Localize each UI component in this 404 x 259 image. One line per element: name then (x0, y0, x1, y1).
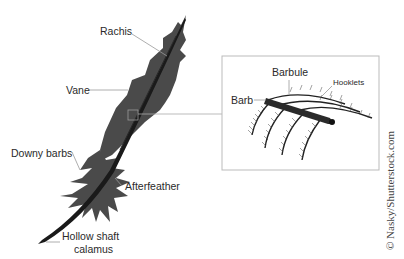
feather-illustration (0, 0, 404, 259)
label-downy-barbs: Downy barbs (11, 148, 72, 159)
label-hollow-shaft: Hollow shaft (62, 231, 119, 242)
downy-barbs-leader (72, 152, 80, 170)
label-calamus: calamus (74, 244, 113, 255)
rachis-leader (132, 34, 167, 56)
watermark-credit: © Nasky/Shutterstock.com (384, 131, 396, 250)
label-barb: Barb (231, 95, 253, 106)
feather-diagram: Rachis Vane Downy barbs Afterfeather Hol… (0, 0, 404, 259)
label-rachis: Rachis (100, 26, 132, 37)
label-afterfeather: Afterfeather (125, 181, 180, 192)
downy-barbs (60, 150, 130, 222)
label-hooklets: Hooklets (333, 79, 364, 87)
label-vane: Vane (66, 85, 90, 96)
label-barbule: Barbule (272, 67, 308, 78)
